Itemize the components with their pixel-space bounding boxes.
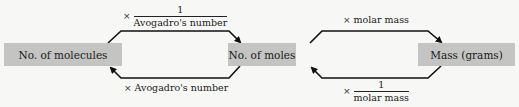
- label-divide-by-avogadro: × 1 Avogadro's number: [123, 5, 227, 27]
- fraction: 1 molar mass: [354, 80, 409, 102]
- multiply-icon: ×: [124, 83, 132, 93]
- multiply-icon: ×: [343, 86, 351, 96]
- box-label: No. of molecules: [19, 49, 108, 61]
- label-times-molar-mass: × molar mass: [343, 14, 409, 25]
- box-label: Mass (grams): [430, 49, 503, 61]
- label-text: molar mass: [354, 14, 409, 25]
- label-times-avogadro: × Avogadro's number: [124, 82, 228, 93]
- arrow-mass-to-moles: [312, 66, 441, 78]
- numerator: 1: [378, 80, 384, 91]
- box-number-of-moles: No. of moles: [228, 43, 296, 66]
- multiply-icon: ×: [123, 11, 131, 21]
- box-label: No. of moles: [229, 49, 296, 61]
- numerator: 1: [177, 5, 183, 16]
- fraction: 1 Avogadro's number: [134, 5, 228, 27]
- label-text: Avogadro's number: [135, 82, 229, 93]
- multiply-icon: ×: [343, 15, 351, 25]
- box-mass-grams: Mass (grams): [418, 43, 515, 66]
- label-divide-by-molar-mass: × 1 molar mass: [343, 80, 409, 102]
- denominator: Avogadro's number: [134, 16, 228, 28]
- box-number-of-molecules: No. of molecules: [4, 43, 122, 66]
- arrow-moles-to-mass: [310, 31, 441, 43]
- arrow-molecules-to-moles: [108, 31, 240, 43]
- arrow-moles-to-molecules: [111, 66, 240, 78]
- denominator: molar mass: [354, 91, 409, 103]
